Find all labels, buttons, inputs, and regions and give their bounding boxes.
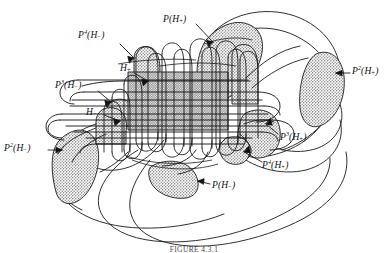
label-p-h-minus-text: P(H−) <box>212 180 235 190</box>
figure-container: P4(H−) P(H+) H+ P3(H−) H− P2(H−) P2(H+) … <box>0 0 388 253</box>
label-p4-h-minus-text: P4(H−) <box>78 30 104 40</box>
label-h-minus: H− <box>86 108 97 118</box>
label-p2-h-plus: P2(H+) <box>352 67 378 77</box>
label-p3-h-minus-text: P3(H−) <box>55 80 81 90</box>
label-p2-h-minus-text: P2(H−) <box>4 143 30 153</box>
label-p-h-minus: P(H−) <box>212 181 235 191</box>
homoclinic-tangle-diagram <box>0 0 388 253</box>
label-p2-h-minus: P2(H−) <box>4 144 30 154</box>
lobe-finger-right <box>232 44 258 104</box>
label-p-h-plus-text: P(H+) <box>163 14 186 24</box>
label-p4-h-plus: P4(H+) <box>262 161 288 171</box>
label-h-plus: H+ <box>120 64 131 74</box>
label-h-minus-text: H− <box>86 107 97 117</box>
label-p2-h-plus-text: P2(H+) <box>352 66 378 76</box>
label-p-h-plus: P(H+) <box>163 15 186 25</box>
figure-caption: FIGURE 4.3.1 <box>0 245 388 253</box>
label-h-plus-text: H+ <box>120 63 131 73</box>
label-p4-h-minus: P4(H−) <box>78 31 104 41</box>
label-p3-h-plus: P3(H+) <box>280 133 306 143</box>
label-p3-h-plus-text: P3(H+) <box>280 132 306 142</box>
label-p4-h-plus-text: P4(H+) <box>262 160 288 170</box>
label-p3-h-minus: P3(H−) <box>55 81 81 91</box>
